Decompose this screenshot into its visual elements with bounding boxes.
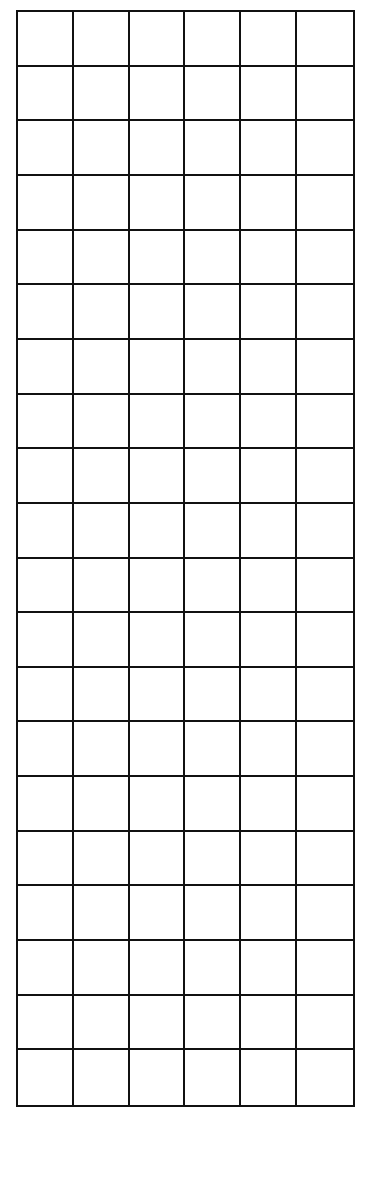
grid-cell <box>241 777 297 832</box>
grid-cell <box>130 12 186 67</box>
grid-cell <box>130 340 186 395</box>
grid-cell <box>185 176 241 231</box>
grid-cell <box>130 832 186 887</box>
grid-cell <box>74 941 130 996</box>
grid-cell <box>241 340 297 395</box>
grid-cell <box>130 449 186 504</box>
grid-cell <box>241 12 297 67</box>
grid-cell <box>185 395 241 450</box>
grid-cell <box>130 285 186 340</box>
grid-cell <box>74 722 130 777</box>
grid-cell <box>130 231 186 286</box>
grid-cell <box>74 613 130 668</box>
grid-cell <box>74 886 130 941</box>
empty-grid <box>16 10 355 1107</box>
grid-cell <box>297 777 353 832</box>
grid-cell <box>185 613 241 668</box>
grid-cell <box>18 340 74 395</box>
grid-cell <box>18 395 74 450</box>
grid-cell <box>297 67 353 122</box>
grid-cell <box>74 395 130 450</box>
grid-cell <box>297 121 353 176</box>
grid-cell <box>74 504 130 559</box>
grid-cell <box>18 176 74 231</box>
grid-cell <box>130 886 186 941</box>
grid-cell <box>18 231 74 286</box>
grid-cell <box>297 722 353 777</box>
grid-cell <box>297 832 353 887</box>
grid-cell <box>74 121 130 176</box>
grid-cell <box>18 12 74 67</box>
grid-cell <box>297 504 353 559</box>
grid-cell <box>74 176 130 231</box>
grid-cell <box>185 722 241 777</box>
grid-cell <box>18 285 74 340</box>
grid-cell <box>241 996 297 1051</box>
grid-cell <box>130 395 186 450</box>
grid-cell <box>74 12 130 67</box>
grid-cell <box>130 1050 186 1105</box>
grid-cell <box>241 285 297 340</box>
grid-cell <box>74 559 130 614</box>
grid-cell <box>18 67 74 122</box>
grid-cell <box>241 941 297 996</box>
grid-cell <box>297 449 353 504</box>
grid-cell <box>130 504 186 559</box>
grid-cell <box>130 176 186 231</box>
grid-cell <box>185 121 241 176</box>
grid-cell <box>130 996 186 1051</box>
grid-cell <box>297 941 353 996</box>
grid-cell <box>130 722 186 777</box>
grid-cell <box>130 613 186 668</box>
grid-cell <box>297 668 353 723</box>
grid-cell <box>297 1050 353 1105</box>
grid-cell <box>74 996 130 1051</box>
grid-cell <box>18 722 74 777</box>
grid-cell <box>74 449 130 504</box>
grid-cell <box>185 231 241 286</box>
grid-cell <box>241 668 297 723</box>
grid-cell <box>185 285 241 340</box>
grid-cell <box>74 832 130 887</box>
grid-cell <box>18 886 74 941</box>
grid-cell <box>297 559 353 614</box>
grid-cell <box>74 668 130 723</box>
grid-cell <box>74 231 130 286</box>
grid-cell <box>241 449 297 504</box>
grid-cell <box>130 67 186 122</box>
grid-cell <box>185 996 241 1051</box>
grid-cell <box>241 886 297 941</box>
grid-cell <box>185 1050 241 1105</box>
grid-cell <box>185 668 241 723</box>
grid-cell <box>130 559 186 614</box>
grid-cell <box>185 832 241 887</box>
grid-cell <box>297 340 353 395</box>
grid-cell <box>18 996 74 1051</box>
grid-cell <box>185 941 241 996</box>
grid-cell <box>74 777 130 832</box>
grid-cell <box>297 176 353 231</box>
grid-cell <box>297 395 353 450</box>
grid-cell <box>185 777 241 832</box>
grid-cell <box>241 559 297 614</box>
grid-cell <box>130 777 186 832</box>
grid-cell <box>297 231 353 286</box>
grid-cell <box>185 12 241 67</box>
grid-cell <box>185 449 241 504</box>
grid-cell <box>241 67 297 122</box>
grid-cell <box>185 67 241 122</box>
grid-cell <box>185 340 241 395</box>
grid-cell <box>297 613 353 668</box>
grid-cell <box>74 1050 130 1105</box>
grid-cell <box>18 777 74 832</box>
grid-cell <box>74 67 130 122</box>
grid-cell <box>241 395 297 450</box>
grid-cell <box>18 504 74 559</box>
grid-cell <box>241 832 297 887</box>
grid-cell <box>241 1050 297 1105</box>
grid-cell <box>18 613 74 668</box>
grid-cell <box>241 231 297 286</box>
grid-cell <box>185 886 241 941</box>
grid-cell <box>297 12 353 67</box>
grid-cell <box>18 559 74 614</box>
